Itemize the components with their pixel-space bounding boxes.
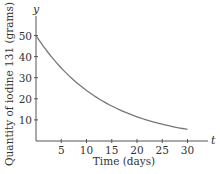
y-axis-variable: y [32,3,40,16]
x-axis-label: Time (days) [93,155,155,167]
y-tick-label: 30 [19,72,32,84]
x-ticks: 51015202530 [58,139,194,156]
x-tick-label: 10 [80,144,93,156]
y-tick-label: 20 [19,93,32,105]
y-tick-label: 40 [19,51,32,63]
y-axis-label: Quantity of iodine 131 (grams) [3,2,15,166]
decay-curve [36,36,188,130]
x-tick-label: 30 [181,144,194,156]
y-tick-label: 50 [19,30,32,42]
y-tick-label: 10 [19,114,32,126]
x-axis-variable: t [211,134,216,147]
y-ticks: 1020304050 [19,30,38,126]
x-tick-label: 5 [58,144,65,156]
x-tick-label: 25 [156,144,169,156]
chart: y t 1020304050 51015202530 Time (days) Q… [0,0,220,174]
